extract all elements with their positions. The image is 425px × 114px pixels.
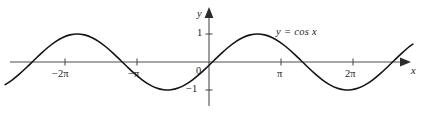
x-tick-label-negative-two-pi: −2π (52, 69, 68, 80)
x-axis-arrowhead (400, 57, 411, 66)
graph-canvas (0, 0, 425, 114)
x-tick-label-negative-pi: −π (128, 69, 139, 80)
x-tick-label-pi: π (277, 69, 282, 80)
x-tick-label-two-pi: 2π (345, 69, 356, 80)
y-tick-label-one: 1 (197, 28, 202, 39)
origin-tick-label: 0 (196, 66, 201, 77)
equation-annotation: y = cos x (276, 27, 317, 38)
x-axis-label: x (411, 66, 416, 77)
y-axis-arrowhead (205, 7, 214, 18)
y-tick-label-negative-one: −1 (186, 84, 197, 95)
cosine-graph-figure: y x y = cos x 0 1 −1 −2π −π π 2π (0, 0, 425, 114)
y-axis-label: y (197, 9, 202, 20)
